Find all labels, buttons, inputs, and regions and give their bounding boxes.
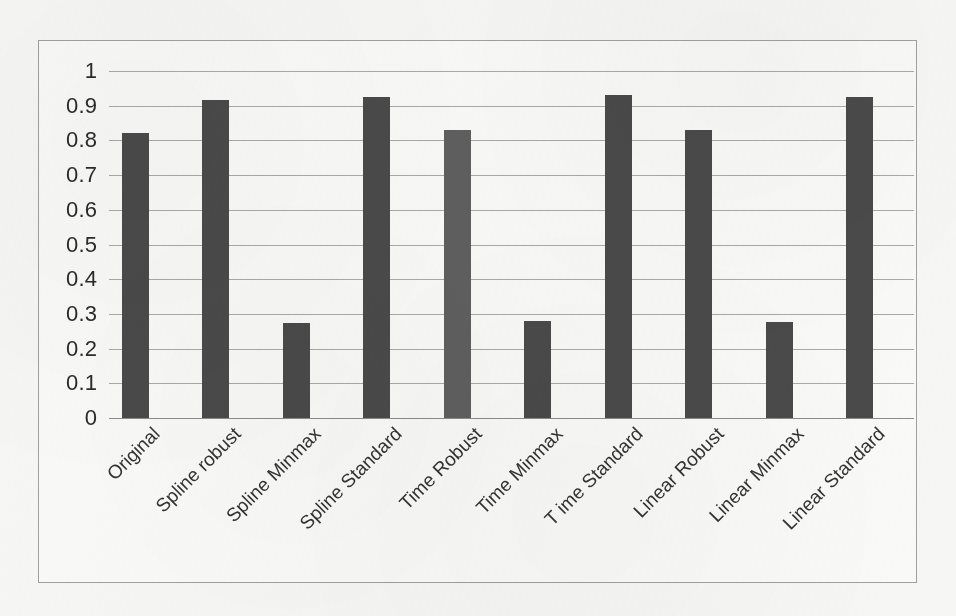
bar [202, 100, 229, 418]
x-axis-tick-label: T ime Standard [491, 423, 648, 580]
x-axis-tick-label: Linear Standard [732, 423, 889, 580]
bar [766, 322, 793, 418]
y-axis-tick-label: 0.1 [66, 370, 97, 396]
bar [444, 130, 471, 418]
gridline [109, 175, 914, 176]
x-axis-tick-label: Time Robust [330, 423, 487, 580]
plot-area [109, 71, 914, 418]
x-axis-tick-label: Spline Minmax [169, 423, 326, 580]
bar [524, 321, 551, 418]
x-axis-tick-label: Spline robust [88, 423, 245, 580]
chart-page: 10.90.80.70.60.50.40.30.20.10 OriginalSp… [0, 0, 956, 616]
x-axis-tick-label: Linear Minmax [652, 423, 809, 580]
x-axis-tick-label: Linear Robust [571, 423, 728, 580]
bar [122, 133, 149, 418]
gridline [109, 349, 914, 350]
x-axis-tick-label: Spline Standard [249, 423, 406, 580]
y-axis-tick-label: 0.8 [66, 127, 97, 153]
bar [605, 95, 632, 418]
y-axis-tick-label: 0.3 [66, 301, 97, 327]
gridline [109, 279, 914, 280]
y-axis: 10.90.80.70.60.50.40.30.20.10 [39, 71, 97, 418]
gridline [109, 314, 914, 315]
x-axis-tick-label: Original [8, 423, 165, 580]
y-axis-tick-label: 0.2 [66, 336, 97, 362]
y-axis-tick-label: 0.4 [66, 266, 97, 292]
x-axis-tick-label: Time Minmax [410, 423, 567, 580]
gridline [109, 418, 914, 419]
y-axis-tick-label: 0 [85, 405, 97, 431]
gridline [109, 383, 914, 384]
bar [846, 97, 873, 418]
y-axis-tick-label: 0.7 [66, 162, 97, 188]
chart-frame: 10.90.80.70.60.50.40.30.20.10 OriginalSp… [38, 40, 917, 583]
gridline [109, 245, 914, 246]
bar [363, 97, 390, 418]
gridline [109, 71, 914, 72]
x-axis: OriginalSpline robustSpline MinmaxSpline… [109, 423, 914, 583]
bar [283, 323, 310, 418]
gridline [109, 140, 914, 141]
gridline [109, 106, 914, 107]
y-axis-tick-label: 0.6 [66, 197, 97, 223]
y-axis-tick-label: 0.9 [66, 93, 97, 119]
gridline [109, 210, 914, 211]
bar [685, 130, 712, 418]
y-axis-tick-label: 1 [85, 58, 97, 84]
y-axis-tick-label: 0.5 [66, 232, 97, 258]
